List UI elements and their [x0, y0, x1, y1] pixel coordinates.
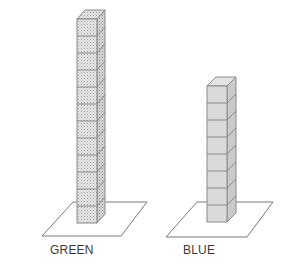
tower-green [77, 10, 105, 223]
tower-blue [207, 77, 236, 222]
cube-tower-figure: GREEN BLUE [0, 0, 290, 272]
figure-canvas [0, 0, 290, 272]
tower-label-blue: BLUE [183, 244, 215, 256]
tower-label-green: GREEN [50, 244, 94, 256]
cube-towers [77, 10, 236, 223]
